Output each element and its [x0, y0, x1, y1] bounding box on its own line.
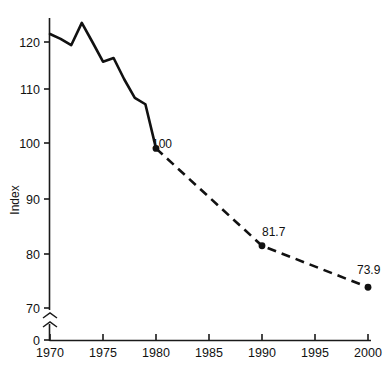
y-tick-label-100: 100 [19, 137, 40, 151]
x-tick-label-1985: 1985 [195, 346, 223, 360]
y-axis-title: Index [8, 185, 22, 214]
chart-background [0, 0, 392, 372]
chart-canvas: 120 110 100 90 80 70 0 Index 1970 1975 1… [0, 0, 392, 372]
data-point-marker [259, 242, 266, 249]
x-tick-label-1990: 1990 [248, 346, 276, 360]
data-label-2000: 73.9 [357, 263, 381, 277]
y-tick-label-120: 120 [19, 36, 40, 50]
data-label-1980: 100 [152, 137, 172, 151]
x-tick-label-2000: 2000 [354, 346, 382, 360]
x-tick-label-1970: 1970 [36, 346, 64, 360]
x-tick-label-1975: 1975 [89, 346, 117, 360]
line-chart: 120 110 100 90 80 70 0 Index 1970 1975 1… [0, 0, 392, 372]
x-tick-label-1980: 1980 [142, 346, 170, 360]
x-tick-label-1995: 1995 [301, 346, 329, 360]
y-tick-label-70: 70 [26, 302, 40, 316]
y-tick-label-90: 90 [26, 193, 40, 207]
data-point-marker [365, 284, 372, 291]
data-label-1990: 81.7 [262, 225, 286, 239]
y-tick-label-80: 80 [26, 248, 40, 262]
y-tick-label-110: 110 [20, 83, 40, 97]
